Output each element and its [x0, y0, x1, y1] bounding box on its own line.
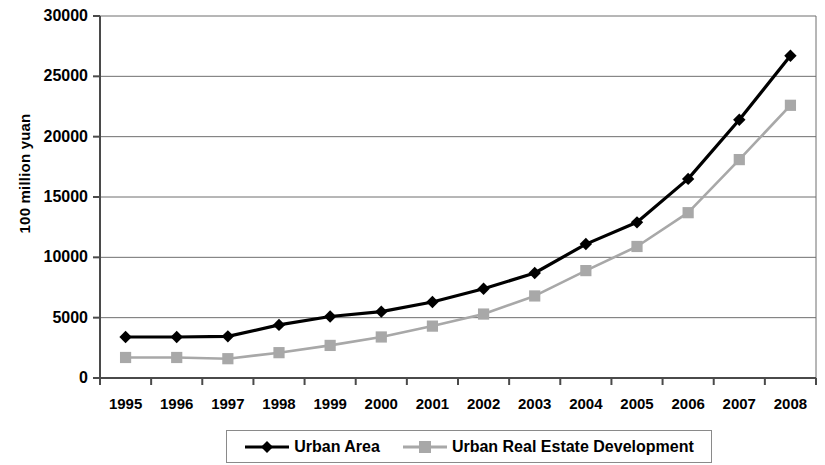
data-point-marker	[529, 267, 541, 279]
data-point-marker	[376, 331, 387, 342]
data-point-marker	[734, 154, 745, 165]
data-point-marker	[580, 265, 591, 276]
data-point-marker	[222, 330, 234, 342]
plot-area	[0, 0, 825, 400]
data-point-marker	[426, 296, 438, 308]
legend-label-urban-area: Urban Area	[294, 438, 380, 456]
legend-label-urban-real-estate-development: Urban Real Estate Development	[452, 438, 694, 456]
chart-legend: Urban Area Urban Real Estate Development	[226, 430, 712, 463]
legend-marker-square-icon	[402, 439, 448, 455]
data-point-marker	[683, 207, 694, 218]
line-chart: 100 million yuan 05000100001500020000250…	[0, 0, 825, 465]
data-point-marker	[222, 353, 233, 364]
legend-item-urban-real-estate-development: Urban Real Estate Development	[402, 438, 694, 456]
data-point-marker	[785, 100, 796, 111]
series-line-urban-real-estate-development	[126, 105, 791, 358]
data-point-marker	[120, 352, 131, 363]
series-line-urban-area	[126, 56, 791, 337]
data-point-marker	[119, 331, 131, 343]
data-point-marker	[631, 241, 642, 252]
legend-item-urban-area: Urban Area	[244, 438, 380, 456]
data-point-marker	[477, 283, 489, 295]
data-point-marker	[529, 290, 540, 301]
data-point-marker	[273, 347, 284, 358]
data-point-marker	[427, 321, 438, 332]
data-point-marker	[171, 352, 182, 363]
data-point-marker	[273, 319, 285, 331]
data-point-marker	[171, 331, 183, 343]
legend-marker-diamond-icon	[244, 439, 290, 455]
data-point-marker	[478, 308, 489, 319]
data-point-marker	[324, 310, 336, 322]
data-point-marker	[375, 305, 387, 317]
data-point-marker	[325, 340, 336, 351]
